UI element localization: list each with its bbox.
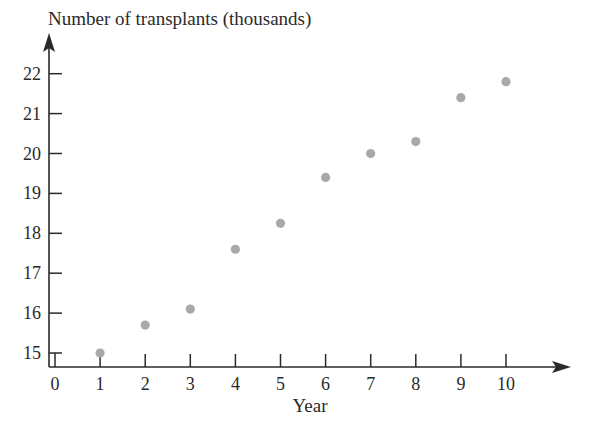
data-point bbox=[276, 219, 285, 228]
data-point bbox=[501, 77, 510, 86]
y-tick-label: 21 bbox=[23, 104, 41, 124]
x-tick-label: 2 bbox=[141, 374, 150, 394]
x-tick-label: 8 bbox=[411, 374, 420, 394]
scatter-chart: Number of transplants (thousands) 151617… bbox=[0, 0, 592, 429]
axis-break-marker bbox=[49, 353, 62, 367]
x-tick-label: 10 bbox=[497, 374, 515, 394]
x-tick-label: 4 bbox=[231, 374, 240, 394]
y-tick-label: 18 bbox=[23, 223, 41, 243]
y-tick-label: 17 bbox=[23, 263, 41, 283]
data-point bbox=[321, 173, 330, 182]
x-tick-label: 1 bbox=[96, 374, 105, 394]
data-point bbox=[186, 305, 195, 314]
data-point bbox=[366, 149, 375, 158]
x-axis-ticks: 012345678910 bbox=[51, 354, 516, 394]
y-tick-label: 22 bbox=[23, 64, 41, 84]
data-point bbox=[456, 93, 465, 102]
x-axis-title: Year bbox=[292, 395, 328, 416]
y-tick-label: 19 bbox=[23, 183, 41, 203]
x-tick-label: 0 bbox=[51, 374, 60, 394]
y-tick-label: 16 bbox=[23, 303, 41, 323]
x-tick-label: 9 bbox=[456, 374, 465, 394]
x-tick-label: 6 bbox=[321, 374, 330, 394]
x-tick-label: 5 bbox=[276, 374, 285, 394]
y-tick-label: 20 bbox=[23, 144, 41, 164]
data-point bbox=[231, 245, 240, 254]
x-tick-label: 3 bbox=[186, 374, 195, 394]
data-point bbox=[96, 348, 105, 357]
x-axis bbox=[49, 361, 571, 373]
y-axis bbox=[43, 33, 55, 367]
y-axis-title: Number of transplants (thousands) bbox=[48, 8, 311, 30]
y-axis-ticks: 1516171819202122 bbox=[23, 64, 62, 363]
x-tick-label: 7 bbox=[366, 374, 375, 394]
data-point bbox=[141, 320, 150, 329]
y-tick-label: 15 bbox=[23, 343, 41, 363]
data-points bbox=[96, 77, 511, 358]
data-point bbox=[411, 137, 420, 146]
